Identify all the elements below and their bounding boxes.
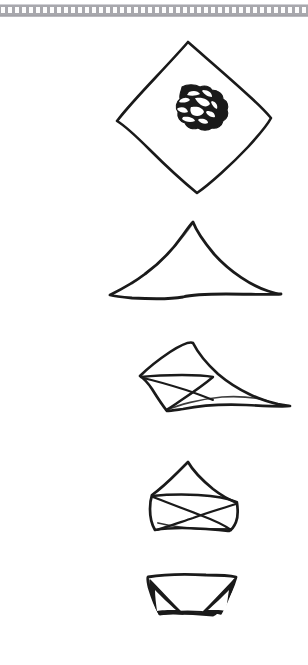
perforation-row xyxy=(1,7,308,14)
center-bundle-scribble xyxy=(176,85,228,131)
perforation-hole xyxy=(134,7,138,13)
perforation-hole xyxy=(78,7,82,13)
perforation-hole xyxy=(92,7,96,13)
perforation-hole xyxy=(22,7,26,13)
strip-drop-shadow xyxy=(0,15,308,17)
perforation-hole xyxy=(43,7,47,13)
panel-5-finished-pouch xyxy=(148,575,236,615)
perforation-hole xyxy=(239,7,243,13)
perforation-hole xyxy=(1,7,5,13)
perforation-hole xyxy=(253,7,257,13)
perforation-hole xyxy=(148,7,152,13)
perforation-hole xyxy=(260,7,264,13)
perforation-hole xyxy=(218,7,222,13)
perforation-hole xyxy=(71,7,75,13)
perforation-hole xyxy=(295,7,299,13)
perforation-hole xyxy=(57,7,61,13)
panel-3-left-corner-folded-in xyxy=(140,342,290,411)
perforation-hole xyxy=(85,7,89,13)
perforation-hole xyxy=(232,7,236,13)
perforation-hole xyxy=(267,7,271,13)
perforation-hole xyxy=(302,7,306,13)
page-canvas xyxy=(0,0,308,665)
perforation-hole xyxy=(64,7,68,13)
perforation-hole xyxy=(204,7,208,13)
pouch-outline xyxy=(150,462,238,531)
perforation-hole xyxy=(29,7,33,13)
perforation-hole xyxy=(169,7,173,13)
right-wing-inner-void xyxy=(208,590,229,611)
perforation-hole xyxy=(106,7,110,13)
panel-1-open-square-with-bundle xyxy=(117,42,271,193)
perforation-hole xyxy=(162,7,166,13)
perforation-hole xyxy=(281,7,285,13)
perforation-hole xyxy=(246,7,250,13)
perforation-hole xyxy=(155,7,159,13)
perforation-hole xyxy=(274,7,278,13)
panel-4-both-corners-folded-in xyxy=(150,462,238,531)
perforation-hole xyxy=(50,7,54,13)
perforation-hole xyxy=(99,7,103,13)
folding-steps-drawing xyxy=(0,18,308,665)
perforation-hole xyxy=(225,7,229,13)
perforation-hole xyxy=(211,7,215,13)
panel-2-folded-triangle xyxy=(110,222,281,299)
perforation-hole xyxy=(190,7,194,13)
perforation-hole xyxy=(120,7,124,13)
perforation-hole xyxy=(197,7,201,13)
perforation-hole xyxy=(176,7,180,13)
perforation-hole xyxy=(141,7,145,13)
perforation-hole xyxy=(183,7,187,13)
perforation-hole xyxy=(127,7,131,13)
perforation-hole xyxy=(8,7,12,13)
triangle-outline xyxy=(110,222,281,299)
perforation-hole xyxy=(15,7,19,13)
left-wing-inner-void xyxy=(155,590,176,611)
perforation-hole xyxy=(288,7,292,13)
perforation-hole xyxy=(113,7,117,13)
perforation-hole xyxy=(36,7,40,13)
